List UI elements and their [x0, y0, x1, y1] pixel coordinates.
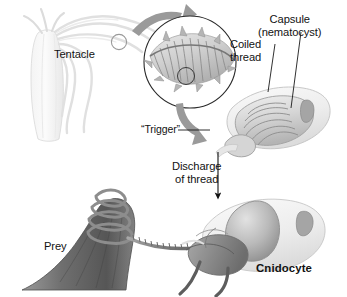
undischarged-cnidocyte-illustration	[216, 87, 330, 157]
curved-arrow-icon	[176, 103, 207, 145]
label-prey: Prey	[44, 240, 67, 253]
cnidocyte-figure: Tentacle Coiled thread Capsule (nematocy…	[0, 0, 347, 297]
label-discharge-of-thread: Discharge of thread	[172, 160, 221, 185]
label-capsule-nematocyst: Capsule (nematocyst)	[258, 13, 321, 38]
label-tentacle: Tentacle	[54, 48, 95, 61]
label-trigger: “Trigger”	[141, 124, 180, 136]
discharged-cnidocyte-illustration	[180, 199, 325, 296]
magnified-inset-illustration	[144, 16, 236, 108]
leader-line-coiled-thread	[268, 44, 275, 92]
label-cnidocyte: Cnidocyte	[256, 262, 312, 275]
label-coiled-thread: Coiled thread	[230, 38, 261, 63]
